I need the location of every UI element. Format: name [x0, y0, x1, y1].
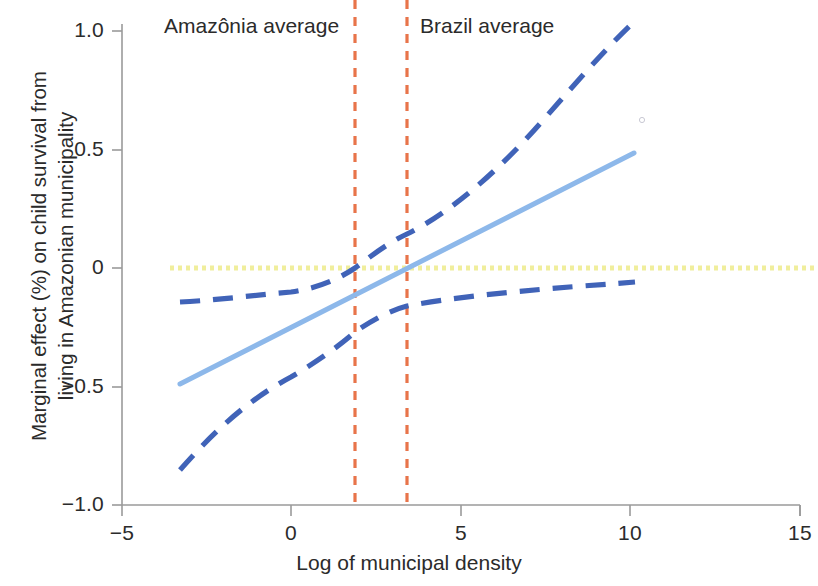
x-axis-title: Log of municipal density [0, 551, 818, 575]
amazonia-average-label: Amazônia average [164, 14, 339, 38]
x-tick-label--5: −5 [92, 521, 152, 545]
y-tick-marks [112, 31, 122, 505]
x-tick-label-0: 0 [261, 521, 321, 545]
y-axis-title-wrapper: Marginal effect (%) on child survival fr… [24, 16, 80, 496]
x-tick-label-5: 5 [431, 521, 491, 545]
x-tick-marks [122, 505, 800, 516]
y-axis-title: Marginal effect (%) on child survival fr… [25, 71, 79, 441]
brazil-average-label: Brazil average [420, 14, 554, 38]
x-tick-label-15: 15 [770, 521, 818, 545]
scan-artifact [639, 117, 644, 122]
x-tick-label-10: 10 [600, 521, 660, 545]
plot-area [0, 0, 818, 586]
chart-figure: 1.0 0.5 0 −0.5 −1.0 −5 0 5 10 15 Amazôni… [0, 0, 818, 586]
